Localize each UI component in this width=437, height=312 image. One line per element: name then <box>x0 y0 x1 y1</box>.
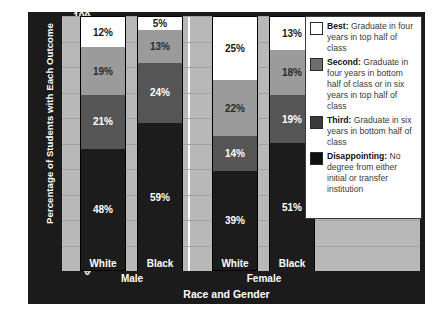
bar-segment: 21% <box>81 95 125 148</box>
bar-segment: 14% <box>213 136 257 171</box>
x-tick-label: Black <box>120 258 200 269</box>
bar-segment: 25% <box>213 17 257 80</box>
x-tick-label: Black <box>252 258 332 269</box>
bar-segment: 12% <box>81 17 125 47</box>
bar-segment: 24% <box>138 63 182 124</box>
bar-segment: 48% <box>81 149 125 270</box>
stacked-bar[interactable]: 25%22%14%39% <box>212 16 258 271</box>
y-axis-title: Percentage of Students with Each Outcome <box>44 0 55 249</box>
legend-swatch-disappointing <box>310 152 323 165</box>
legend-item[interactable]: Disappointing: No degree from either ini… <box>310 151 417 195</box>
bar-segment: 13% <box>138 30 182 63</box>
x-axis-title: Race and Gender <box>28 288 425 300</box>
x-group-label: Male <box>72 273 192 284</box>
chart-figure: 0102030405060708090100 Percentage of Stu… <box>0 0 437 312</box>
legend-label: Second: Graduate in four years in bottom… <box>327 57 417 112</box>
bar-segment: 19% <box>81 47 125 95</box>
bar-segment: 5% <box>138 17 182 30</box>
stacked-bar[interactable]: 5%13%24%59% <box>137 16 183 271</box>
legend-label: Third: Graduate in six years in bottom h… <box>327 115 417 148</box>
bar-segment: 22% <box>213 80 257 136</box>
chart-legend: Best: Graduate in four years in top half… <box>305 16 422 219</box>
stacked-bar[interactable]: 12%19%21%48% <box>80 16 126 271</box>
bar-segment: 39% <box>213 171 257 270</box>
bar-segment: 59% <box>138 123 182 272</box>
legend-swatch-third <box>310 116 323 129</box>
legend-item[interactable]: Second: Graduate in four years in bottom… <box>310 57 417 112</box>
legend-label: Disappointing: No degree from either ini… <box>327 151 417 195</box>
legend-label: Best: Graduate in four years in top half… <box>327 21 417 54</box>
legend-swatch-best <box>310 22 323 35</box>
legend-swatch-second <box>310 58 323 71</box>
x-group-label: Female <box>204 273 324 284</box>
legend-item[interactable]: Best: Graduate in four years in top half… <box>310 21 417 54</box>
legend-item[interactable]: Third: Graduate in six years in bottom h… <box>310 115 417 148</box>
